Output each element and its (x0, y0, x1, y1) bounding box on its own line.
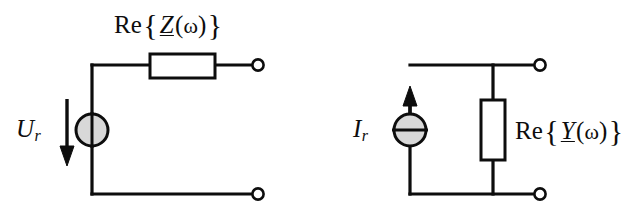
admittance-symbol: Y (560, 117, 576, 144)
voltage-source-label-symbol: U (16, 115, 34, 142)
admittance-re-text: Re (515, 117, 543, 144)
impedance-close-brace: } (207, 8, 224, 41)
admittance-label: Re{Y(ω)} (515, 116, 624, 146)
impedance-re-text: Re (114, 11, 142, 38)
admittance-close-paren: ) (599, 117, 608, 144)
circuit-schematic-canvas (0, 0, 635, 218)
admittance-omega: ω (584, 119, 599, 144)
impedance-symbol: Z (159, 11, 175, 38)
left-circuit-group (60, 54, 264, 200)
current-source-label: Ir (353, 116, 368, 144)
circuit-figure: Re{Z(ω)} Re{Y(ω)} Ur Ir (0, 0, 635, 218)
right-top-terminal (534, 59, 545, 70)
left-resistor-body (150, 54, 215, 78)
current-source-label-subscript: r (361, 127, 368, 144)
impedance-close-paren: ) (198, 11, 207, 38)
current-arrow-head (403, 86, 417, 106)
voltage-arrow-head (60, 146, 74, 166)
right-bottom-terminal (534, 188, 545, 199)
right-resistor-body (481, 100, 505, 160)
voltage-source-label-subscript: r (34, 127, 41, 144)
admittance-close-brace: } (608, 114, 625, 147)
impedance-omega: ω (183, 13, 198, 38)
impedance-label: Re{Z(ω)} (114, 10, 223, 40)
left-bottom-terminal (252, 188, 263, 199)
voltage-source-label: Ur (16, 116, 41, 144)
impedance-open-brace: { (142, 8, 159, 41)
left-top-terminal (252, 59, 263, 70)
admittance-open-brace: { (543, 114, 560, 147)
